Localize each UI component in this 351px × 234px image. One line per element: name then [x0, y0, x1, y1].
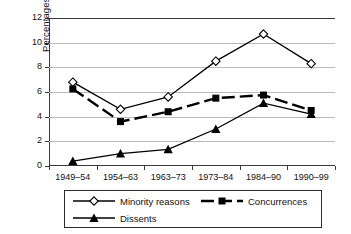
data-point-1-2 [165, 108, 172, 115]
data-point-2-3 [211, 124, 220, 133]
x-tick-mark-3 [192, 166, 193, 170]
legend-swatch-open-diamond-icon [71, 194, 117, 208]
data-point-1-0 [69, 85, 76, 92]
x-tick-mark-6 [335, 166, 336, 170]
data-point-0-1 [116, 105, 124, 113]
y-tick-label-4: 4 [22, 112, 42, 121]
y-tick-label-2: 2 [22, 136, 42, 145]
data-point-2-4 [259, 99, 268, 108]
x-tick-mark-0 [49, 166, 50, 170]
y-axis-title: Percentages of citations [40, 0, 51, 52]
legend-swatch-filled-square-icon [199, 194, 245, 208]
legend-label: Dissents [120, 213, 156, 224]
data-point-0-0 [69, 78, 77, 86]
x-tick-mark-5 [287, 166, 288, 170]
x-tick-label-3: 1973–84 [198, 172, 233, 182]
legend-swatch-filled-triangle-icon [71, 211, 117, 225]
x-tick-mark-1 [97, 166, 98, 170]
x-tick-mark-4 [240, 166, 241, 170]
figure-container: 024681012 1949–541954–631963–731973–8419… [0, 0, 351, 234]
legend-item-dissents[interactable]: Dissents [71, 210, 156, 226]
y-tick-label-6: 6 [22, 87, 42, 96]
y-tick-label-0: 0 [22, 161, 42, 170]
data-point-1-3 [212, 95, 219, 102]
x-tick-label-5: 1990–99 [294, 172, 329, 182]
plot-area: 024681012 1949–541954–631963–731973–8419… [49, 18, 335, 166]
x-tick-label-2: 1963–73 [151, 172, 186, 182]
legend-item-minority-reasons[interactable]: Minority reasons [71, 193, 190, 209]
y-tick-label-10: 10 [22, 38, 42, 47]
legend-label: Concurrences [248, 196, 307, 207]
x-tick-label-0: 1949–54 [55, 172, 90, 182]
series-layer [49, 18, 335, 166]
legend-marker [90, 197, 98, 205]
series-concurrences [69, 85, 314, 125]
x-tick-label-4: 1984–90 [246, 172, 281, 182]
data-point-1-1 [117, 118, 124, 125]
chart-legend: Minority reasonsConcurrencesDissents [64, 190, 322, 228]
x-tick-mark-2 [144, 166, 145, 170]
data-point-0-4 [259, 30, 267, 38]
legend-label: Minority reasons [120, 196, 190, 207]
data-point-0-5 [307, 59, 315, 67]
y-tick-label-8: 8 [22, 62, 42, 71]
legend-item-concurrences[interactable]: Concurrences [199, 193, 307, 209]
series-dissents [68, 99, 316, 165]
legend-marker [219, 198, 226, 205]
series-line [73, 103, 311, 161]
y-tick-label-12: 12 [22, 13, 42, 22]
data-point-1-4 [260, 92, 267, 99]
x-tick-label-1: 1954–63 [103, 172, 138, 182]
cropped-caption-remnant [2, 0, 122, 7]
